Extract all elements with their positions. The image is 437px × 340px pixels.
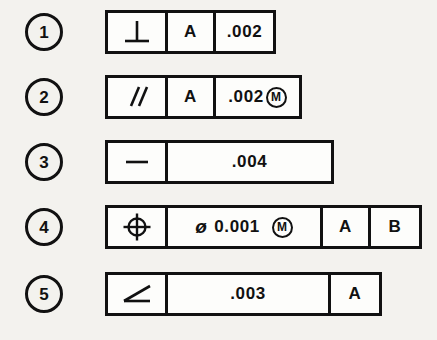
tolerance-cell: .004 [168, 143, 331, 181]
datum-cell: B [371, 208, 419, 246]
fcf-row-1: 1 A .002 [0, 2, 437, 68]
row-index-badge-2: 2 [25, 78, 63, 116]
drawing-sheet: 1 A .002 2 [0, 0, 437, 340]
row-index-label: 2 [39, 88, 48, 105]
fcf-row-2: 2 A .002 M [0, 67, 437, 133]
position-symbol [108, 208, 168, 246]
fcf-row-3: 3 .004 [0, 132, 437, 198]
row-index-label: 4 [39, 218, 48, 235]
feature-control-frame-4: ø 0.001 M A B [105, 205, 422, 249]
row-index-badge-5: 5 [25, 275, 63, 313]
row-index-badge-3: 3 [25, 143, 63, 181]
tolerance-cell: .003 [168, 275, 331, 313]
diameter-symbol: ø [195, 216, 207, 238]
datum-cell: A [323, 208, 371, 246]
feature-control-frame-5: .003 A [105, 272, 382, 316]
mmc-modifier-icon: M [272, 217, 293, 238]
row-index-label: 5 [39, 285, 48, 302]
datum-cell: A [168, 78, 216, 116]
row-index-badge-4: 4 [25, 208, 63, 246]
straightness-symbol [108, 143, 168, 181]
perpendicularity-symbol [108, 13, 168, 51]
tolerance-value: 0.001 [214, 217, 260, 237]
datum-cell: A [331, 275, 379, 313]
row-index-badge-1: 1 [25, 13, 63, 51]
row-index-label: 1 [39, 23, 48, 40]
tolerance-value: .003 [230, 284, 266, 304]
feature-control-frame-1: A .002 [105, 10, 276, 54]
feature-control-frame-2: A .002 M [105, 75, 302, 119]
tolerance-value: .002 [227, 22, 263, 42]
tolerance-cell: .002 [216, 13, 273, 51]
mmc-modifier-icon: M [266, 87, 287, 108]
tolerance-value: .004 [232, 152, 268, 172]
row-index-label: 3 [39, 153, 48, 170]
tolerance-cell: ø 0.001 M [168, 208, 323, 246]
fcf-row-4: 4 ø 0.001 M A B [0, 197, 437, 263]
angularity-symbol [108, 275, 168, 313]
fcf-row-5: 5 .003 A [0, 264, 437, 330]
parallelism-symbol [108, 78, 168, 116]
tolerance-value: .002 [228, 87, 264, 107]
tolerance-cell: .002 M [216, 78, 299, 116]
datum-cell: A [168, 13, 216, 51]
feature-control-frame-3: .004 [105, 140, 334, 184]
